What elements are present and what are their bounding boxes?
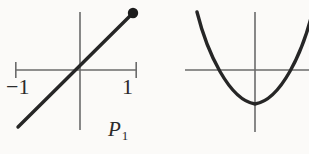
curve-label-p1: P1: [108, 119, 129, 142]
curve-p2: [197, 10, 309, 104]
plot-p2-graphic: [155, 0, 309, 154]
legendre-polynomial-figure: −1 1 P1 P2: [0, 0, 309, 154]
x-tick-label-negative-one: −1: [6, 76, 29, 98]
plot-panel-p1: −1 1 P1: [0, 0, 155, 154]
endpoint-dot-p1: [128, 8, 138, 18]
curve-label-p1-base: P: [108, 117, 121, 141]
x-tick-label-positive-one: 1: [122, 76, 133, 98]
plot-panel-p2: P2: [155, 0, 309, 154]
curve-label-p1-subscript: 1: [122, 128, 129, 143]
